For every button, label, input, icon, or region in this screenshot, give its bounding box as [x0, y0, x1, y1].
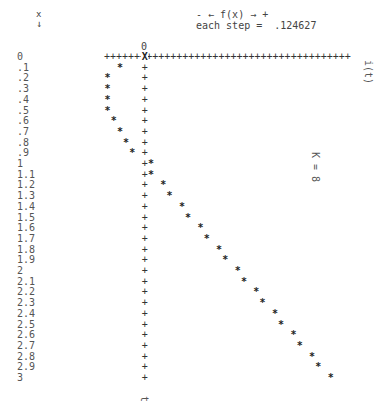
axis-tick: +	[141, 84, 148, 94]
row-label: .8	[17, 138, 29, 148]
data-point: *	[147, 170, 154, 180]
row-label: 1.3	[17, 191, 35, 201]
axis-tick: +	[141, 180, 148, 190]
axis-tick: +	[141, 234, 148, 244]
row-label: 2.6	[17, 330, 35, 340]
axis-tick: +	[141, 116, 148, 126]
axis-tick: +	[141, 202, 148, 212]
row-label: 1.4	[17, 202, 35, 212]
axis-tick: +	[141, 63, 148, 73]
row-label: 1.8	[17, 245, 35, 255]
data-point: *	[309, 352, 316, 362]
row-label: 1.6	[17, 223, 35, 233]
data-point: *	[147, 159, 154, 169]
data-point: *	[234, 266, 241, 276]
data-point: *	[178, 202, 185, 212]
row-label: .6	[17, 116, 29, 126]
row-label: 0	[17, 52, 23, 62]
row-label: 2.4	[17, 309, 35, 319]
row-label: 2.9	[17, 362, 35, 372]
row-label: .5	[17, 106, 29, 116]
row-label: 2.2	[17, 287, 35, 297]
data-point: *	[240, 277, 247, 287]
axis-tick: +	[141, 362, 148, 372]
axis-tick: +	[141, 298, 148, 308]
row-label: 1.7	[17, 234, 35, 244]
down-arrow-icon: ↓	[36, 19, 42, 29]
axis-tick: +	[141, 191, 148, 201]
data-point: *	[296, 341, 303, 351]
row-label: 3	[17, 373, 23, 383]
axis-tick: +	[141, 330, 148, 340]
axis-tick: +	[141, 320, 148, 330]
data-point: *	[216, 245, 223, 255]
data-point: *	[104, 73, 111, 83]
row-label: .9	[17, 148, 29, 158]
axis-tick: +	[141, 148, 148, 158]
data-point: *	[259, 298, 266, 308]
data-point: *	[327, 373, 334, 383]
row-label: 2	[17, 266, 23, 276]
data-point: *	[116, 127, 123, 137]
axis-tick: +	[141, 287, 148, 297]
axis-tick: +	[141, 341, 148, 351]
row-label: 2.1	[17, 277, 35, 287]
row-label: 1	[17, 159, 23, 169]
data-point: *	[290, 330, 297, 340]
axis-tick: +	[141, 127, 148, 137]
row-label: 1.9	[17, 255, 35, 265]
data-point: *	[104, 106, 111, 116]
axis-tick: +	[141, 73, 148, 83]
data-point: *	[104, 95, 111, 105]
row-label: 2.3	[17, 298, 35, 308]
data-point: *	[116, 63, 123, 73]
direction-legend: - ← f(x) → +	[196, 9, 268, 20]
axis-tick: +	[141, 255, 148, 265]
axis-tick: +	[141, 106, 148, 116]
data-point: *	[123, 138, 130, 148]
data-point: *	[160, 180, 167, 190]
data-point: *	[110, 116, 117, 126]
axis-tick: +	[141, 373, 148, 383]
data-point: *	[278, 320, 285, 330]
row-label: .1	[17, 63, 29, 73]
data-point: *	[203, 234, 210, 244]
data-point: *	[104, 84, 111, 94]
row-label: 2.8	[17, 352, 35, 362]
axis-tick: +	[141, 309, 148, 319]
data-point: *	[222, 255, 229, 265]
row-label: 2.5	[17, 320, 35, 330]
data-point: X	[141, 52, 148, 62]
step-size-label: each step = .124627	[196, 20, 316, 31]
data-point: *	[166, 191, 173, 201]
axis-tick: +	[141, 223, 148, 233]
bottom-axis-label: t	[139, 396, 149, 402]
row-label: 1.1	[17, 170, 35, 180]
axis-tick: +	[141, 95, 148, 105]
row-label: .4	[17, 95, 29, 105]
data-point: *	[315, 362, 322, 372]
right-axis-label: i(t)	[363, 60, 373, 84]
data-point: *	[271, 309, 278, 319]
axis-tick: +	[141, 138, 148, 148]
row-label: 1.5	[17, 213, 35, 223]
data-point: *	[253, 287, 260, 297]
row-label: .3	[17, 84, 29, 94]
axis-tick: +	[141, 245, 148, 255]
data-point: *	[129, 148, 136, 158]
row-label: 2.7	[17, 341, 35, 351]
row-label: 1.2	[17, 180, 35, 190]
axis-tick: +	[141, 266, 148, 276]
axis-tick: +	[141, 352, 148, 362]
parameter-label: K = 8	[310, 152, 320, 182]
row-label: .7	[17, 127, 29, 137]
data-point: *	[197, 223, 204, 233]
row-label: .2	[17, 73, 29, 83]
axis-tick: +	[141, 213, 148, 223]
axis-tick: +	[141, 277, 148, 287]
data-point: *	[185, 213, 192, 223]
